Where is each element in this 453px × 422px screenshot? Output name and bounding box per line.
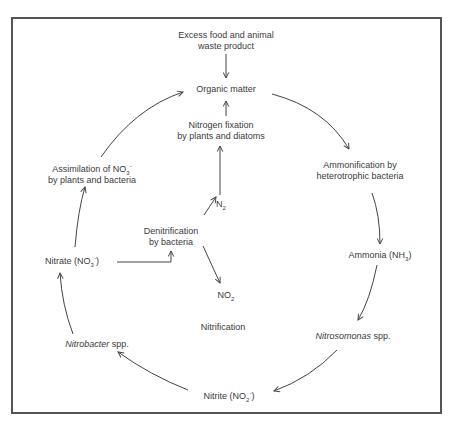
arrow-nitrate-to-assimilation (75, 187, 85, 247)
assimilation-line1: Assimilation of NO3- (48, 164, 136, 175)
arrow-nitrosomonas-to-nitrite (274, 350, 337, 391)
arrow-ammonia-to-nitrosomonas (358, 265, 377, 320)
node-n2: N2 (216, 199, 226, 210)
excess-food-line2: waste product (178, 41, 274, 52)
denitrification-line1: Denitrification (144, 226, 199, 237)
node-ammonia: Ammonia (NH3) (349, 250, 412, 261)
node-ammonification: Ammonification by heterotrophic bacteria (316, 160, 403, 182)
excess-food-line1: Excess food and animal (178, 30, 274, 41)
nitrogen-fixation-line1: Nitrogen fixation (177, 120, 265, 131)
node-nitrogen-fixation: Nitrogen fixation by plants and diatoms (177, 120, 265, 142)
arrow-denitrification-to-n2 (204, 197, 216, 215)
ammonification-line1: Ammonification by (316, 160, 403, 171)
node-denitrification: Denitrification by bacteria (144, 226, 199, 248)
node-nitrosomonas: Nitrosomonas spp. (315, 331, 390, 342)
arrow-assimilation-to-organic (101, 92, 183, 157)
arrow-organic-to-ammonification (272, 94, 349, 149)
node-nitrification: Nitrification (201, 322, 246, 333)
cycle-arrows (0, 0, 453, 422)
arrow-nitrate-to-denitrification (117, 251, 171, 262)
ammonification-line2: heterotrophic bacteria (316, 171, 403, 182)
node-excess-food: Excess food and animal waste product (178, 30, 274, 52)
denitrification-line2: by bacteria (144, 237, 199, 248)
node-no2: NO2 (218, 290, 235, 301)
nitrogen-fixation-line2: by plants and diatoms (177, 131, 265, 142)
arrow-nitrobacter-to-nitrate (60, 273, 73, 334)
node-nitrite: Nitrite (NO2-) (204, 391, 255, 402)
arrow-nitrite-to-nitrobacter (118, 352, 188, 390)
assimilation-line2: by plants and bacteria (48, 175, 136, 186)
node-assimilation: Assimilation of NO3- by plants and bacte… (48, 164, 136, 186)
arrow-ammonification-to-ammonia (372, 193, 380, 244)
arrow-denitrification-to-no2 (203, 246, 220, 283)
node-organic-matter: Organic matter (196, 84, 256, 95)
node-nitrobacter: Nitrobacter spp. (65, 339, 129, 350)
node-nitrate: Nitrate (NO3-) (45, 256, 99, 267)
